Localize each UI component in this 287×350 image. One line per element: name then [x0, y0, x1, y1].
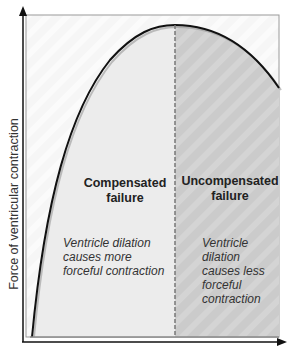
uncompensated-desc-line: Ventricle	[202, 236, 265, 250]
uncompensated-desc-line: contraction	[202, 292, 265, 306]
uncompensated-description: Ventricle dilation causes less forceful …	[202, 236, 265, 306]
compensated-title-line-2: failure	[70, 191, 180, 206]
uncompensated-title-line-2: failure	[178, 189, 282, 204]
uncompensated-title: Uncompensated failure	[178, 174, 282, 204]
compensated-desc-line: forceful contraction	[63, 264, 164, 278]
compensated-desc-line: Ventricle dilation	[63, 236, 164, 250]
y-axis-label: Force of ventricular contraction	[7, 94, 23, 314]
y-axis-arrow-icon	[19, 6, 27, 16]
uncompensated-desc-line: causes less	[202, 264, 265, 278]
x-axis-arrow-icon	[277, 338, 287, 346]
compensated-desc-line: causes more	[63, 250, 164, 264]
compensated-title-line-1: Compensated	[70, 176, 180, 191]
uncompensated-desc-line: dilation	[202, 250, 265, 264]
compensated-title: Compensated failure	[70, 176, 180, 206]
uncompensated-desc-line: forceful	[202, 278, 265, 292]
compensated-description: Ventricle dilation causes more forceful …	[63, 236, 164, 278]
uncompensated-title-line-1: Uncompensated	[178, 174, 282, 189]
